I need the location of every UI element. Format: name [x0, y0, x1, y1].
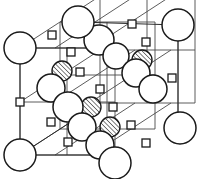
inner-center-right: [139, 75, 167, 103]
square-right-mid: [168, 74, 176, 82]
lattice-diagram-svg: [0, 0, 198, 179]
square-back-top-right: [142, 38, 150, 46]
square-lower-right: [127, 121, 135, 129]
crystal-lattice-figure: [0, 0, 198, 179]
edge-front-bottom-center: [99, 147, 131, 179]
square-center: [96, 85, 104, 93]
square-center-low: [109, 103, 117, 111]
square-back-top-center: [128, 20, 136, 28]
square-bottom-right: [142, 139, 150, 147]
square-back-top-left: [48, 31, 56, 39]
square-mid-center-top: [76, 68, 84, 76]
corner-front-top-left: [4, 32, 36, 64]
square-mid-upper-left: [67, 48, 75, 56]
corner-back-top-center: [62, 6, 94, 38]
corner-back-bottom-right: [164, 112, 196, 144]
corner-front-bottom-left: [4, 139, 36, 171]
square-mid-front-left: [47, 118, 55, 126]
square-front-bottom-center: [64, 138, 72, 146]
square-front-left-mid: [16, 98, 24, 106]
corner-back-top-right: [162, 9, 194, 41]
